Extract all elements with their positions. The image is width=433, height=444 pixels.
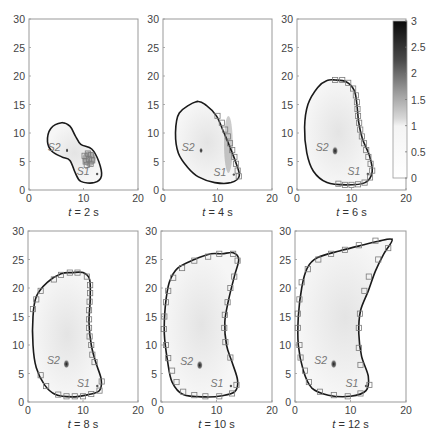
y-tick-label: 20: [145, 282, 157, 294]
y-tick-label: 15: [13, 99, 25, 111]
y-tick-label: 5: [18, 368, 24, 380]
y-tick-label: 25: [281, 42, 293, 54]
y-tick-label: 5: [151, 368, 157, 380]
panel-t12: S2S105101520253001020t = 12 s: [279, 225, 412, 430]
y-tick-label: 15: [145, 311, 157, 323]
x-tick-label: 20: [132, 192, 144, 204]
y-tick-label: 30: [13, 13, 25, 25]
y-tick-label: 10: [147, 127, 159, 139]
panel-t4: S2S105101520253001020t = 4 s: [147, 13, 278, 218]
panel-t8: S2S105101520253001020t = 8 s: [12, 225, 144, 430]
y-tick-label: 0: [287, 184, 293, 196]
colorbar-tick-label: 1: [411, 120, 417, 132]
y-tick-label: 0: [18, 396, 24, 408]
x-tick-label: 20: [266, 192, 278, 204]
x-tick-label: 0: [25, 404, 31, 416]
source-s2-spot: [63, 358, 69, 368]
source-s1-spot: [230, 385, 232, 387]
source-label-s1: S1: [77, 165, 90, 177]
y-tick-label: 10: [12, 339, 24, 351]
source-s2-spot: [331, 358, 337, 368]
y-tick-label: 30: [147, 13, 159, 25]
y-tick-label: 15: [281, 99, 293, 111]
x-tick-label: 0: [294, 192, 300, 204]
y-tick-label: 10: [279, 339, 291, 351]
y-tick-label: 25: [147, 42, 159, 54]
y-tick-label: 10: [13, 127, 25, 139]
source-s1-spot: [96, 385, 98, 387]
source-s2-spot: [197, 359, 203, 369]
y-tick-label: 5: [287, 156, 293, 168]
y-tick-label: 10: [145, 339, 157, 351]
source-label-s2: S2: [182, 141, 195, 153]
panel-caption: t = 10 s: [198, 418, 235, 430]
colorbar-tick-label: 2: [411, 67, 417, 79]
colorbar: 00.511.522.53: [393, 15, 426, 184]
y-tick-label: 15: [12, 311, 24, 323]
panel-t10: S2S105101520253001020t = 10 s: [145, 225, 278, 430]
y-tick-label: 10: [281, 127, 293, 139]
panel-caption: t = 12 s: [332, 418, 369, 430]
x-tick-label: 10: [346, 192, 358, 204]
y-tick-label: 0: [151, 396, 157, 408]
y-tick-label: 5: [19, 156, 25, 168]
y-tick-label: 20: [281, 70, 293, 82]
colorbar-tick-label: 3: [411, 15, 417, 27]
panel-caption: t = 2 s: [68, 206, 99, 218]
panel-caption: t = 8 s: [68, 418, 99, 430]
source-s2-spot: [65, 148, 68, 153]
y-tick-label: 30: [145, 225, 157, 237]
y-tick-label: 15: [279, 311, 291, 323]
panel-t6: S2S105101520253001020t = 6 s: [281, 13, 412, 218]
x-tick-label: 20: [266, 404, 278, 416]
source-label-s2: S2: [314, 354, 327, 366]
x-tick-label: 10: [78, 192, 90, 204]
y-tick-label: 0: [19, 184, 25, 196]
colorbar-tick-label: 2.5: [411, 41, 426, 53]
x-tick-label: 0: [160, 192, 166, 204]
y-tick-label: 20: [12, 282, 24, 294]
source-s1-spot: [233, 173, 235, 175]
y-tick-label: 25: [279, 254, 291, 266]
y-tick-label: 0: [153, 184, 159, 196]
source-s2-spot: [332, 145, 338, 155]
source-label-s2: S2: [180, 355, 193, 367]
y-tick-label: 5: [153, 156, 159, 168]
x-tick-label: 0: [158, 404, 164, 416]
y-tick-label: 15: [147, 99, 159, 111]
y-tick-label: 30: [12, 225, 24, 237]
colorbar-tick-label: 1.5: [411, 94, 426, 106]
y-tick-label: 20: [279, 282, 291, 294]
x-tick-label: 20: [132, 404, 144, 416]
y-tick-label: 25: [12, 254, 24, 266]
x-tick-label: 0: [26, 192, 32, 204]
x-tick-label: 10: [345, 404, 357, 416]
panel-caption: t = 6 s: [336, 206, 367, 218]
y-tick-label: 30: [281, 13, 293, 25]
x-tick-label: 20: [400, 404, 412, 416]
y-tick-label: 30: [279, 225, 291, 237]
source-label-s1: S1: [346, 377, 359, 389]
y-tick-label: 20: [13, 70, 25, 82]
source-label-s1: S1: [213, 166, 226, 178]
panel-t2: S2S105101520253001020t = 2 s: [13, 13, 144, 218]
y-tick-label: 25: [145, 254, 157, 266]
source-label-s2: S2: [47, 354, 60, 366]
x-tick-label: 10: [77, 404, 89, 416]
y-tick-label: 0: [285, 396, 291, 408]
colorbar-tick-label: 0: [411, 172, 417, 184]
figure: S2S105101520253001020t = 2 sS2S105101520…: [0, 0, 433, 444]
source-s1-spot: [96, 173, 98, 175]
x-tick-label: 20: [400, 192, 412, 204]
x-tick-label: 0: [292, 404, 298, 416]
y-tick-label: 20: [147, 70, 159, 82]
x-tick-label: 10: [211, 404, 223, 416]
x-tick-label: 10: [212, 192, 224, 204]
panels-group: S2S105101520253001020t = 2 sS2S105101520…: [12, 13, 412, 430]
y-tick-label: 25: [13, 42, 25, 54]
y-tick-label: 5: [285, 368, 291, 380]
source-label-s2: S2: [316, 141, 329, 153]
source-label-s1: S1: [347, 165, 360, 177]
source-label-s1: S1: [77, 377, 90, 389]
source-label-s2: S2: [48, 141, 61, 153]
